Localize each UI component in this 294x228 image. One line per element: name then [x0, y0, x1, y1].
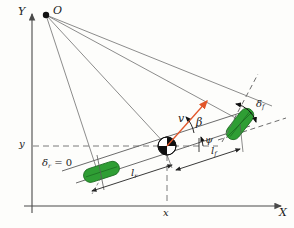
rear-length-label: lr [131, 168, 137, 179]
front-steer-angle-label: δf [256, 99, 264, 110]
rear-steer-value: = 0 [51, 157, 72, 168]
y-tick-label: y [19, 139, 25, 149]
x-tick-label: x [163, 208, 169, 218]
origin-point [43, 12, 49, 18]
rear-length-subscript: r [134, 172, 137, 179]
front-steer-subscript: f [262, 103, 264, 110]
y-axis-label: Y [18, 6, 25, 17]
front-length-label: lf [211, 146, 217, 157]
velocity-label: v [178, 113, 184, 124]
rear-wheel [82, 159, 122, 184]
origin-label: O [53, 5, 62, 16]
diagram-svg [0, 0, 294, 228]
sideslip-angle-label: β [196, 117, 202, 128]
rear-steer-angle-label: δr = 0 [42, 158, 72, 169]
yaw-angle-label: ψ [205, 135, 213, 145]
figure-canvas: Y X y x O v β ψ δf δr = 0 lr lf [0, 0, 294, 228]
x-axis-label: X [279, 207, 287, 218]
yaw-angle-arc [199, 137, 203, 152]
coordinate-guides [33, 146, 218, 205]
front-length-subscript: f [214, 150, 216, 157]
